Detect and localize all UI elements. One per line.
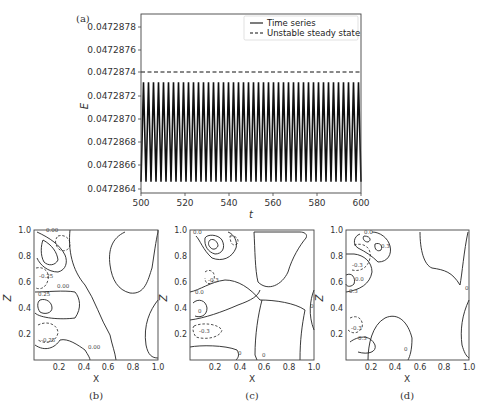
svg-text:1.0: 1.0 bbox=[463, 363, 476, 372]
panel-label-d: (d) bbox=[400, 390, 414, 401]
svg-text:0.8: 0.8 bbox=[127, 363, 140, 372]
svg-text:0: 0 bbox=[262, 352, 266, 358]
svg-text:0.0472866: 0.0472866 bbox=[87, 160, 136, 170]
panel-label-b: (b) bbox=[89, 390, 103, 401]
x-axis-ticks-d: 0.2 0.4 0.6 0.8 1.0 bbox=[365, 363, 476, 372]
svg-text:0.3: 0.3 bbox=[358, 335, 367, 341]
svg-text:0.2: 0.2 bbox=[18, 330, 31, 339]
svg-text:0.4: 0.4 bbox=[18, 304, 31, 313]
svg-text:0.0472870: 0.0472870 bbox=[87, 114, 136, 124]
svg-text:0.2: 0.2 bbox=[365, 363, 378, 372]
legend-label-time-series: Time series bbox=[266, 18, 316, 28]
svg-text:0.0472874: 0.0472874 bbox=[87, 67, 136, 77]
x-axis-ticks-b: 0.2 0.4 0.6 0.8 1.0 bbox=[53, 363, 165, 372]
svg-text:1.0: 1.0 bbox=[330, 226, 343, 235]
svg-text:0: 0 bbox=[310, 303, 314, 309]
svg-text:0.4: 0.4 bbox=[234, 363, 247, 372]
svg-text:0.0472864: 0.0472864 bbox=[87, 184, 136, 194]
svg-text:600: 600 bbox=[352, 198, 369, 208]
svg-text:0.2: 0.2 bbox=[330, 330, 343, 339]
panel-label-c: (c) bbox=[245, 390, 259, 401]
svg-text:-0.25: -0.25 bbox=[41, 337, 56, 343]
svg-text:0.6: 0.6 bbox=[102, 363, 115, 372]
svg-text:0.0: 0.0 bbox=[355, 276, 364, 282]
svg-text:0.3: 0.3 bbox=[381, 243, 390, 249]
svg-text:0.4: 0.4 bbox=[330, 304, 343, 313]
svg-text:1.0: 1.0 bbox=[174, 226, 187, 235]
svg-text:1.0: 1.0 bbox=[152, 363, 165, 372]
svg-text:-0.3: -0.3 bbox=[208, 277, 219, 283]
svg-text:0.8: 0.8 bbox=[174, 252, 187, 261]
svg-text:Z: Z bbox=[158, 293, 169, 302]
svg-text:0.0472868: 0.0472868 bbox=[87, 137, 136, 147]
panel-d-contour: 0.0 0.3 -0.3 0.0 0.3 -0.3 0.3 0 0 1.0 0.… bbox=[314, 226, 475, 401]
panel-c-contour: 0.0 -0.3 0.0 0 -0.3 0 0 0 1.0 0.8 0.6 0.… bbox=[158, 226, 320, 401]
y-axis-ticks-c: 1.0 0.8 0.6 0.4 0.2 bbox=[174, 226, 187, 339]
panel-b-contour: 0.00 -0.25 0.00 0.25 -0.25 0.00 1.0 0.8 … bbox=[2, 226, 164, 401]
time-series-line bbox=[141, 82, 361, 182]
svg-text:1.0: 1.0 bbox=[18, 226, 31, 235]
x-axis-label-a: t bbox=[249, 209, 254, 220]
svg-text:0.0: 0.0 bbox=[195, 289, 204, 295]
svg-text:0.3: 0.3 bbox=[349, 288, 358, 294]
svg-text:0.00: 0.00 bbox=[88, 344, 101, 350]
svg-text:Z: Z bbox=[2, 293, 13, 302]
svg-text:0.25: 0.25 bbox=[38, 291, 51, 297]
svg-text:-0.3: -0.3 bbox=[351, 325, 362, 331]
panel-a-time-series: (a) 0.0472878 0.0472876 0.0472874 0.0472… bbox=[76, 13, 370, 220]
y-axis-ticks-a: 0.0472878 0.0472876 0.0472874 0.0472872 … bbox=[87, 22, 141, 194]
svg-text:580: 580 bbox=[308, 198, 325, 208]
x-axis-ticks-a: 500 520 540 560 580 600 bbox=[132, 193, 369, 208]
svg-text:560: 560 bbox=[264, 198, 281, 208]
svg-text:-0.25: -0.25 bbox=[39, 273, 54, 279]
svg-text:-0.3: -0.3 bbox=[199, 328, 210, 334]
legend: Time series Unstable steady state bbox=[244, 16, 360, 40]
svg-text:0.4: 0.4 bbox=[78, 363, 91, 372]
svg-text:0: 0 bbox=[238, 350, 242, 356]
svg-text:X: X bbox=[404, 374, 410, 384]
svg-text:0.4: 0.4 bbox=[389, 363, 402, 372]
svg-text:0: 0 bbox=[465, 285, 469, 291]
svg-text:0.6: 0.6 bbox=[18, 278, 31, 287]
svg-text:0.6: 0.6 bbox=[258, 363, 271, 372]
svg-text:0: 0 bbox=[198, 308, 202, 314]
svg-text:0.8: 0.8 bbox=[283, 363, 296, 372]
svg-text:0.2: 0.2 bbox=[53, 363, 66, 372]
svg-text:0.6: 0.6 bbox=[414, 363, 427, 372]
svg-text:-0.3: -0.3 bbox=[352, 262, 363, 268]
svg-text:0.0472878: 0.0472878 bbox=[87, 22, 136, 32]
svg-text:0.2: 0.2 bbox=[174, 330, 187, 339]
svg-text:X: X bbox=[249, 374, 255, 384]
svg-text:0.0472876: 0.0472876 bbox=[87, 45, 136, 55]
svg-text:0.6: 0.6 bbox=[174, 278, 187, 287]
y-axis-ticks-d: 1.0 0.8 0.6 0.4 0.2 bbox=[330, 226, 343, 339]
svg-text:540: 540 bbox=[220, 198, 237, 208]
svg-text:0.0472872: 0.0472872 bbox=[87, 91, 136, 101]
svg-text:0.2: 0.2 bbox=[209, 363, 222, 372]
svg-text:1.0: 1.0 bbox=[308, 363, 321, 372]
svg-text:0.8: 0.8 bbox=[330, 252, 343, 261]
x-axis-ticks-c: 0.2 0.4 0.6 0.8 1.0 bbox=[209, 363, 321, 372]
svg-text:0.00: 0.00 bbox=[57, 283, 70, 289]
legend-label-unstable-steady-state: Unstable steady state bbox=[267, 28, 360, 38]
y-axis-label-a: E bbox=[79, 102, 90, 109]
svg-text:0.4: 0.4 bbox=[174, 304, 187, 313]
svg-text:500: 500 bbox=[132, 198, 149, 208]
svg-text:0.6: 0.6 bbox=[330, 278, 343, 287]
svg-text:520: 520 bbox=[176, 198, 193, 208]
svg-text:0.8: 0.8 bbox=[438, 363, 451, 372]
y-axis-ticks-b: 1.0 0.8 0.6 0.4 0.2 bbox=[18, 226, 31, 339]
svg-text:Z: Z bbox=[314, 293, 325, 302]
figure: (a) 0.0472878 0.0472876 0.0472874 0.0472… bbox=[0, 0, 487, 412]
svg-text:X: X bbox=[93, 374, 99, 384]
svg-text:0.8: 0.8 bbox=[18, 252, 31, 261]
svg-text:0: 0 bbox=[404, 346, 408, 352]
